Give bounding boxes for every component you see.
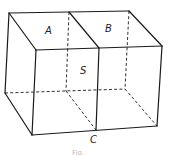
- label-s: S: [80, 65, 87, 76]
- top-left-depth-edge: [9, 13, 36, 50]
- back-right-vertical-edge: [125, 11, 129, 89]
- label-a: A: [44, 25, 52, 36]
- bottom-left-depth-edge: [5, 93, 32, 135]
- label-b: B: [105, 23, 112, 34]
- top-middle-depth-edge: [69, 12, 99, 48]
- front-right-vertical-edge: [157, 46, 162, 126]
- two-box-diagram: A B S C Fig.: [0, 0, 169, 155]
- back-bottom-edge: [5, 89, 125, 93]
- figure-caption: Fig.: [72, 149, 84, 155]
- back-middle-vertical-edge: [66, 12, 69, 91]
- front-middle-vertical-edge: [96, 48, 99, 130]
- label-c: C: [90, 134, 97, 145]
- left-back-vertical-edge: [5, 13, 9, 93]
- right-bottom-depth-edge: [125, 89, 157, 126]
- middle-bottom-depth-edge: [66, 91, 96, 130]
- top-right-depth-edge: [129, 11, 162, 46]
